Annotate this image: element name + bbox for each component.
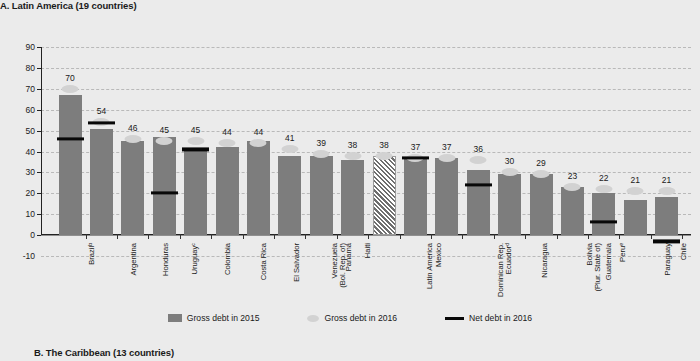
bar-gross-debt-2015[interactable] xyxy=(90,129,113,236)
legend-label-gross-2015: Gross debt in 2015 xyxy=(187,313,260,323)
marker-gross-debt-2016[interactable] xyxy=(564,183,581,191)
bar-value-label: 22 xyxy=(599,174,608,183)
x-axis-tick-mark xyxy=(211,234,212,239)
bar-gross-debt-2015[interactable] xyxy=(153,137,176,235)
x-axis-tick-mark xyxy=(180,234,181,239)
bar-gross-debt-2015[interactable] xyxy=(278,156,301,235)
bar-gross-debt-2015[interactable] xyxy=(59,95,82,235)
x-axis-tick-mark xyxy=(86,234,87,239)
x-axis-tick-mark xyxy=(494,234,495,239)
legend-item-net-2016: Net debt in 2016 xyxy=(445,313,532,323)
gridline xyxy=(41,131,691,132)
y-axis-tick-mark xyxy=(37,235,41,236)
marker-gross-debt-2016[interactable] xyxy=(219,139,236,147)
panel-a-title: A. Latin America (19 countries) xyxy=(0,0,136,11)
net-debt-2016-line[interactable] xyxy=(182,148,209,151)
y-axis-tick-label: 70 xyxy=(26,85,35,94)
legend-label-gross-2016: Gross debt in 2016 xyxy=(324,313,397,323)
y-axis-tick-label: 60 xyxy=(26,105,35,114)
x-axis-category-label: Honduras xyxy=(162,243,170,276)
marker-gross-debt-2016[interactable] xyxy=(438,154,455,162)
bar-value-label: 44 xyxy=(222,128,231,137)
net-debt-2016-line[interactable] xyxy=(653,240,680,243)
bar-gross-debt-2015[interactable] xyxy=(435,158,458,235)
x-axis-category-label: Uruguayᶜ xyxy=(192,243,200,274)
bar-gross-debt-2015[interactable] xyxy=(404,158,427,235)
x-axis-tick-mark xyxy=(243,234,244,239)
x-axis-category-label: Panama xyxy=(345,243,353,271)
marker-gross-debt-2016[interactable] xyxy=(533,170,550,178)
bar-gross-debt-2015[interactable] xyxy=(561,187,584,235)
bar-gross-debt-2015[interactable] xyxy=(592,193,615,235)
bar-gross-debt-2015[interactable] xyxy=(373,156,396,235)
bar-gross-debt-2015[interactable] xyxy=(467,170,490,235)
bar-value-label: 23 xyxy=(568,172,577,181)
bar-gross-debt-2015[interactable] xyxy=(247,141,270,235)
marker-gross-debt-2016[interactable] xyxy=(376,152,393,160)
marker-gross-debt-2016[interactable] xyxy=(627,187,644,195)
marker-gross-debt-2016[interactable] xyxy=(124,135,141,143)
legend-item-gross-2016: Gross debt in 2016 xyxy=(307,313,397,323)
bar-gross-debt-2015[interactable] xyxy=(530,174,553,235)
x-axis-tick-mark xyxy=(337,234,338,239)
bar-gross-debt-2015[interactable] xyxy=(624,200,647,236)
bar-value-label: 36 xyxy=(473,144,482,153)
bar-value-label: 21 xyxy=(662,176,671,185)
x-axis-category-label: Paraguay xyxy=(664,243,672,276)
x-axis-tick-mark xyxy=(557,234,558,239)
marker-gross-debt-2016[interactable] xyxy=(281,145,298,153)
bar-value-label: 21 xyxy=(630,176,639,185)
marker-gross-debt-2016[interactable] xyxy=(62,85,79,93)
x-axis-tick-mark xyxy=(682,234,683,239)
x-axis-tick-mark xyxy=(305,234,306,239)
marker-gross-debt-2016[interactable] xyxy=(344,152,361,160)
x-axis-tick-mark xyxy=(651,234,652,239)
x-axis-category-label: Haiti xyxy=(364,243,372,258)
bar-gross-debt-2015[interactable] xyxy=(655,197,678,235)
bar-gross-debt-2015[interactable] xyxy=(216,147,239,235)
bar-gross-debt-2015[interactable] xyxy=(310,156,333,235)
marker-gross-debt-2016[interactable] xyxy=(187,137,204,145)
net-debt-2016-line[interactable] xyxy=(590,220,617,223)
bar-gross-debt-2015[interactable] xyxy=(121,141,144,235)
panel-b-title: B. The Caribbean (13 countries) xyxy=(34,347,174,358)
marker-gross-debt-2016[interactable] xyxy=(250,139,267,147)
gridline xyxy=(41,47,691,48)
net-debt-2016-line[interactable] xyxy=(151,192,178,195)
x-axis-category-label: Brazilᵇ xyxy=(88,243,96,265)
x-axis-tick-mark xyxy=(274,234,275,239)
x-axis-tick-mark xyxy=(400,234,401,239)
x-axis-tick-mark xyxy=(148,234,149,239)
bar-gross-debt-2015[interactable] xyxy=(184,149,207,235)
chart-plot-area: -100102030405060708090 70544645454444413… xyxy=(41,47,691,256)
y-axis-line xyxy=(41,47,42,234)
bar-value-label: 44 xyxy=(254,128,263,137)
bar-value-label: 45 xyxy=(191,126,200,135)
y-axis-tick-label: 50 xyxy=(26,126,35,135)
y-axis-tick-label: 0 xyxy=(30,231,35,240)
x-axis-category-label: Colombia xyxy=(224,243,232,275)
marker-gross-debt-2016[interactable] xyxy=(313,150,330,158)
bar-gross-debt-2015[interactable] xyxy=(341,160,364,235)
y-axis-tick-label: 40 xyxy=(26,147,35,156)
net-debt-2016-line[interactable] xyxy=(88,122,115,125)
x-axis-category-label: Bolivia (Plur. State of) xyxy=(586,243,603,292)
bar-value-label: 38 xyxy=(379,140,388,149)
x-axis-tick-mark xyxy=(619,234,620,239)
y-axis-tick-label: 20 xyxy=(26,189,35,198)
bar-value-label: 54 xyxy=(97,107,106,116)
x-axis-category-label: Nicaragua xyxy=(540,243,548,278)
marker-gross-debt-2016[interactable] xyxy=(470,156,487,164)
net-debt-2016-line[interactable] xyxy=(465,183,492,186)
marker-gross-debt-2016[interactable] xyxy=(501,168,518,176)
marker-gross-debt-2016[interactable] xyxy=(595,185,612,193)
y-axis-tick-label: 30 xyxy=(26,168,35,177)
net-debt-2016-line[interactable] xyxy=(402,156,429,159)
x-axis-category-label: Guatemala xyxy=(606,243,614,280)
x-axis-tick-mark xyxy=(368,234,369,239)
marker-gross-debt-2016[interactable] xyxy=(156,137,173,145)
y-axis-tick-label: 80 xyxy=(26,64,35,73)
marker-gross-debt-2016[interactable] xyxy=(658,187,675,195)
net-debt-2016-line[interactable] xyxy=(57,137,84,140)
bar-gross-debt-2015[interactable] xyxy=(498,174,521,235)
